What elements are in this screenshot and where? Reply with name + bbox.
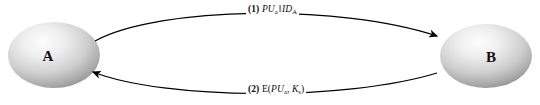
edge-msg2-arrow <box>93 72 437 94</box>
node-b-label: B <box>486 49 496 65</box>
edge-msg1-arrow <box>95 13 437 41</box>
node-a-label: A <box>43 48 54 64</box>
node-a-shape <box>8 22 100 88</box>
diagram-graphics: A B <box>0 0 540 105</box>
diagram-canvas: A B (1) PUa‖IDA (2) E(PUa, Ks) <box>0 0 540 105</box>
